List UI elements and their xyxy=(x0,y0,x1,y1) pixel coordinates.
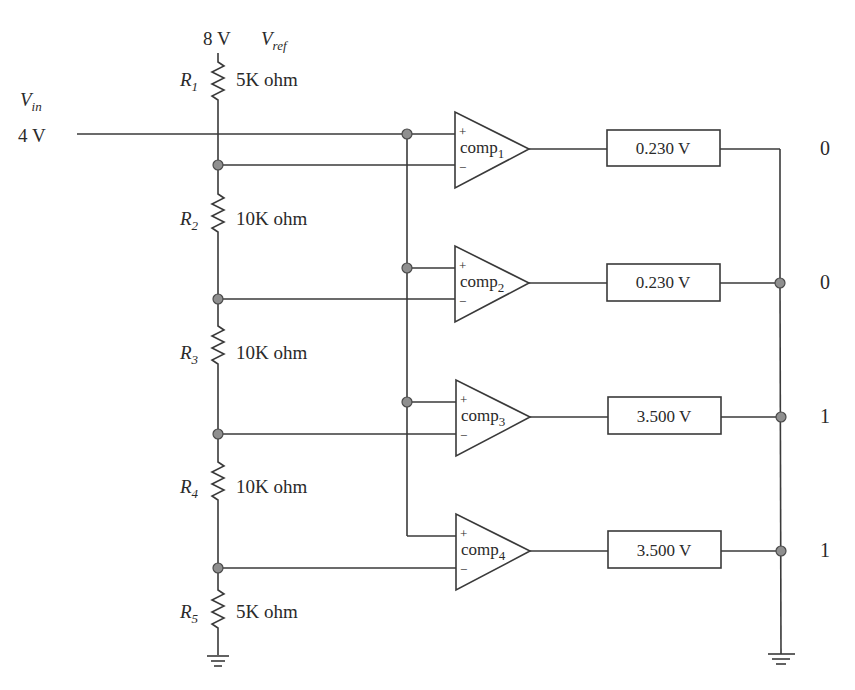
minus-sign: − xyxy=(459,294,466,309)
plus-sign: + xyxy=(459,124,466,139)
r3-label: R3 xyxy=(179,342,199,367)
minus-sign: − xyxy=(460,562,467,577)
circuit-diagram: 8 V Vref Vin 4 V R1 5K ohm R2 10K ohm R3… xyxy=(0,0,855,690)
vin-value: 4 V xyxy=(18,125,46,146)
r3-value: 10K ohm xyxy=(236,342,307,363)
junction-dot-icon xyxy=(402,129,412,139)
voltage-value: 3.500 V xyxy=(637,407,692,426)
junction-dot-icon xyxy=(402,397,412,407)
output-bit-4: 1 xyxy=(820,539,830,561)
comparator-4: + − comp4 xyxy=(456,514,530,590)
junction-dot-icon xyxy=(776,412,786,422)
output-voltage-3: 3.500 V xyxy=(608,397,721,434)
output-bit-2: 0 xyxy=(820,271,830,293)
vin-symbol: Vin xyxy=(20,89,42,114)
voltage-value: 3.500 V xyxy=(637,541,692,560)
r5-value: 5K ohm xyxy=(236,601,298,622)
junction-dot-icon xyxy=(402,263,412,273)
ground-icon xyxy=(207,656,229,666)
r1-label: R1 xyxy=(179,69,198,94)
plus-sign: + xyxy=(460,392,467,407)
resistor-ladder xyxy=(207,53,229,666)
r4-value: 10K ohm xyxy=(236,476,307,497)
junction-dot-icon xyxy=(213,563,223,573)
comparator-2: + − comp2 xyxy=(455,246,529,322)
output-bit-1: 0 xyxy=(820,137,830,159)
ground-icon xyxy=(768,654,795,664)
plus-sign: + xyxy=(459,258,466,273)
junction-dot-icon xyxy=(213,294,223,304)
voltage-value: 0.230 V xyxy=(636,139,691,158)
junction-dot-icon xyxy=(213,429,223,439)
junction-dot-icon xyxy=(776,546,786,556)
minus-sign: − xyxy=(460,428,467,443)
r1-value: 5K ohm xyxy=(236,69,298,90)
output-voltage-1: 0.230 V xyxy=(607,130,720,166)
r4-label: R4 xyxy=(179,476,199,501)
r2-label: R2 xyxy=(179,208,199,233)
output-voltage-4: 3.500 V xyxy=(608,531,721,568)
resistor-r4-icon xyxy=(212,434,224,568)
output-bit-3: 1 xyxy=(820,405,830,427)
r5-label: R5 xyxy=(179,601,199,626)
resistor-r5-icon xyxy=(212,568,224,655)
comparator-1: + − comp1 xyxy=(455,112,529,188)
r2-value: 10K ohm xyxy=(236,208,307,229)
vref-value: 8 V xyxy=(203,28,231,49)
resistor-r3-icon xyxy=(212,299,224,434)
plus-sign: + xyxy=(460,526,467,541)
minus-sign: − xyxy=(459,160,466,175)
junction-dot-icon xyxy=(775,278,785,288)
voltage-value: 0.230 V xyxy=(636,273,691,292)
resistor-r1-icon xyxy=(212,53,224,165)
vref-symbol: Vref xyxy=(261,28,289,53)
comparator-3: + − comp3 xyxy=(456,380,530,456)
output-voltage-2: 0.230 V xyxy=(607,264,720,301)
resistor-r2-icon xyxy=(212,165,224,299)
junction-dot-icon xyxy=(213,160,223,170)
